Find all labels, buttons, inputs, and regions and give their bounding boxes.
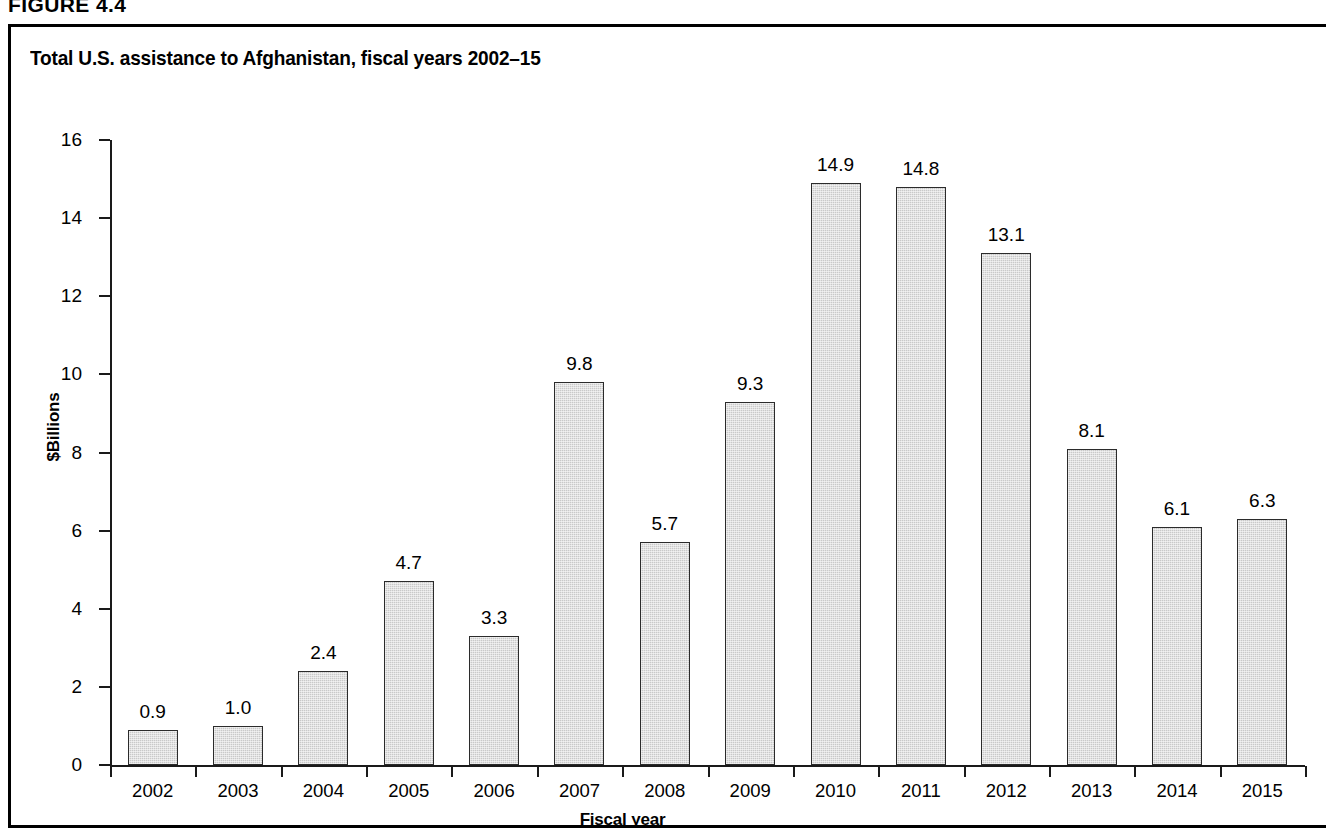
figure-border-box (8, 24, 1326, 828)
chart-title: Total U.S. assistance to Afghanistan, fi… (30, 46, 541, 70)
figure-number-header: FIGURE 4.4 (8, 0, 126, 17)
